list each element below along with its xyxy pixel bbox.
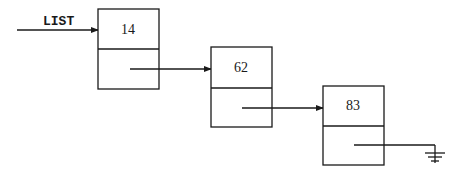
list-node-2: 62 bbox=[211, 47, 272, 127]
node-value: 14 bbox=[121, 22, 135, 37]
head-label: LIST bbox=[43, 14, 74, 29]
head-pointer: LIST bbox=[17, 14, 98, 30]
node-value: 83 bbox=[346, 98, 360, 113]
list-node-1: 14 bbox=[98, 9, 159, 89]
node-value: 62 bbox=[234, 60, 248, 75]
linked-list-diagram: LIST 14 62 83 bbox=[0, 0, 464, 175]
node-box bbox=[211, 47, 272, 127]
list-node-3: 83 bbox=[323, 86, 384, 165]
